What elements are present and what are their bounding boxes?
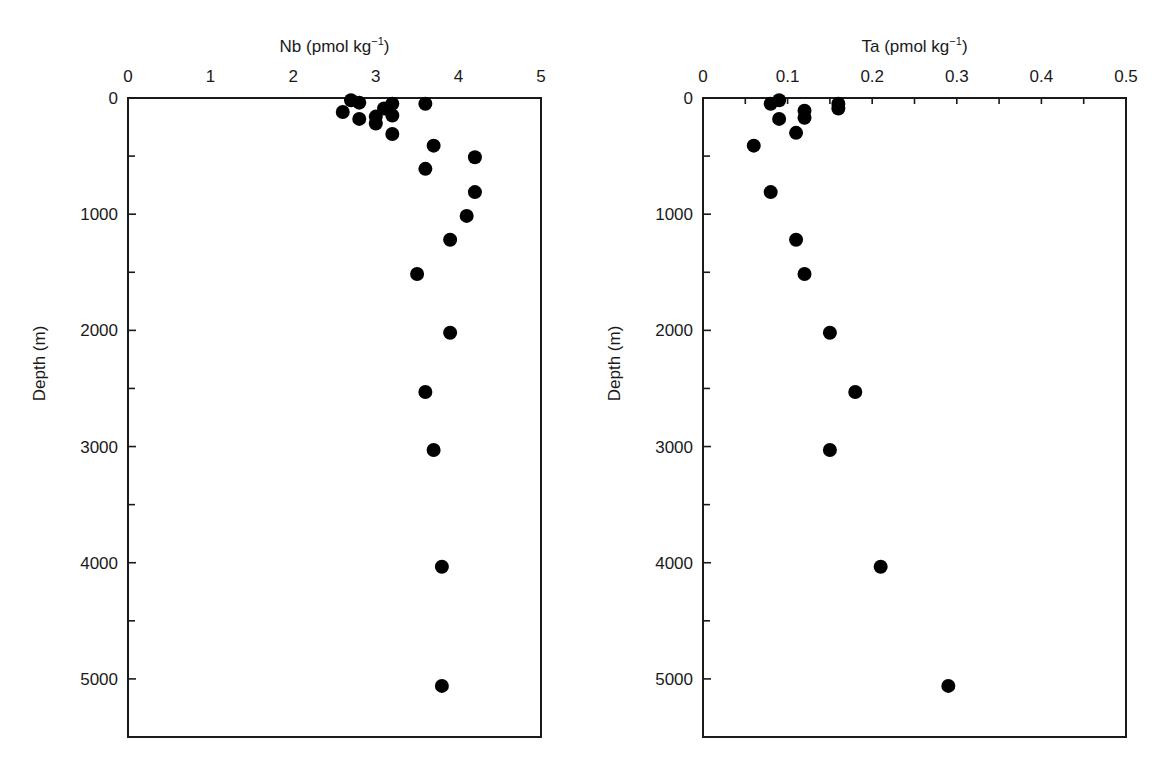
x-tick-label: 0.5: [1114, 67, 1138, 86]
data-point: [823, 443, 837, 457]
data-point: [352, 112, 366, 126]
x-tick-label: 1: [206, 67, 215, 86]
x-tick-label: 3: [371, 67, 380, 86]
data-point: [848, 385, 862, 399]
y-tick-label: 3000: [655, 438, 693, 457]
data-point: [874, 560, 888, 574]
data-point: [831, 101, 845, 115]
x-tick-label: 0: [123, 67, 132, 86]
data-point: [468, 185, 482, 199]
y-axis-title: Depth (m): [30, 326, 49, 402]
data-point: [427, 139, 441, 153]
figure-canvas: 012345010002000300040005000Nb (pmol kg−1…: [0, 0, 1165, 772]
data-point: [410, 267, 424, 281]
y-axis-title: Depth (m): [605, 326, 624, 402]
x-axis-title-close: ): [384, 37, 390, 56]
x-tick-label: 0.2: [860, 67, 884, 86]
y-tick-label: 2000: [655, 321, 693, 340]
x-tick-label: 0.3: [945, 67, 969, 86]
x-tick-label: 0: [698, 67, 707, 86]
x-axis-title-superscript: −1: [371, 35, 384, 47]
data-point: [798, 111, 812, 125]
data-point: [336, 105, 350, 119]
x-axis-title-text: Ta (pmol kg: [861, 37, 949, 56]
y-tick-label: 0: [109, 89, 118, 108]
data-point: [764, 185, 778, 199]
data-point: [941, 679, 955, 693]
data-point: [747, 139, 761, 153]
data-point: [823, 326, 837, 340]
nb-depth-profile-chart: 012345010002000300040005000Nb (pmol kg−1…: [30, 35, 546, 737]
x-tick-label: 4: [454, 67, 463, 86]
y-tick-label: 3000: [80, 438, 118, 457]
y-tick-label: 1000: [80, 205, 118, 224]
x-axis-title-text: Nb (pmol kg: [280, 37, 372, 56]
data-point: [443, 233, 457, 247]
data-point: [443, 326, 457, 340]
data-point: [418, 385, 432, 399]
data-point: [460, 209, 474, 223]
data-point: [764, 97, 778, 111]
data-point: [418, 97, 432, 111]
x-axis-title: Ta (pmol kg−1): [861, 35, 967, 56]
x-axis-title-superscript: −1: [949, 35, 962, 47]
ta-depth-profile-chart: 00.10.20.30.40.5010002000300040005000Ta …: [605, 35, 1138, 737]
x-axis-title-close: ): [962, 37, 968, 56]
x-tick-label: 0.1: [776, 67, 800, 86]
data-point: [798, 267, 812, 281]
data-point: [427, 443, 441, 457]
y-tick-label: 0: [684, 89, 693, 108]
data-point: [435, 560, 449, 574]
data-point: [352, 96, 366, 110]
x-tick-label: 5: [536, 67, 545, 86]
x-tick-label: 0.4: [1030, 67, 1054, 86]
x-axis-title: Nb (pmol kg−1): [280, 35, 390, 56]
y-tick-label: 5000: [655, 670, 693, 689]
y-tick-label: 1000: [655, 205, 693, 224]
data-point: [789, 126, 803, 140]
y-tick-label: 2000: [80, 321, 118, 340]
data-point: [385, 127, 399, 141]
x-tick-label: 2: [288, 67, 297, 86]
y-tick-label: 4000: [80, 554, 118, 573]
data-point: [369, 117, 383, 131]
data-point: [468, 150, 482, 164]
data-point: [418, 162, 432, 176]
y-tick-label: 4000: [655, 554, 693, 573]
y-tick-label: 5000: [80, 670, 118, 689]
data-point: [435, 679, 449, 693]
data-point: [772, 112, 786, 126]
data-point: [385, 108, 399, 122]
data-point: [789, 233, 803, 247]
